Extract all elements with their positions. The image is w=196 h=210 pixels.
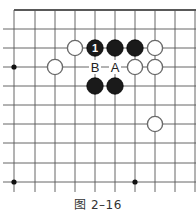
black-stone: [87, 78, 103, 94]
white-stone: [147, 59, 162, 74]
board-grid: [3, 10, 196, 192]
black-stone: [127, 40, 143, 56]
black-stone: 1: [87, 40, 103, 56]
star-point: [11, 64, 16, 69]
go-board: BA 1: [0, 0, 196, 192]
figure-caption: 图 2–16: [0, 195, 196, 210]
black-stone: [107, 40, 123, 56]
stone-move-number: 1: [92, 42, 98, 54]
marker-b: B: [91, 60, 100, 75]
black-stone: [107, 78, 123, 94]
star-point: [11, 179, 16, 184]
white-stone: [47, 59, 62, 74]
white-stone: [147, 40, 162, 55]
white-stone: [67, 40, 82, 55]
star-point: [132, 179, 137, 184]
white-stone: [147, 116, 162, 131]
marker-a: A: [111, 60, 120, 75]
white-stone: [127, 59, 142, 74]
